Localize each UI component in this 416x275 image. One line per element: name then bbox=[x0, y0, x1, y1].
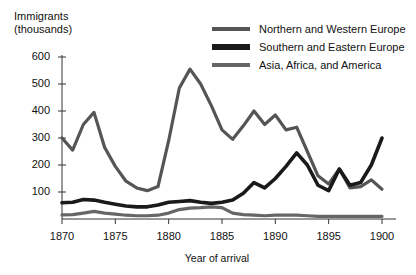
x-axis-label: Year of arrival bbox=[0, 252, 416, 264]
x-tick-label: 1890 bbox=[263, 230, 287, 242]
x-tick-label: 1900 bbox=[370, 230, 394, 242]
legend-item[interactable]: Northern and Western Europe bbox=[212, 20, 406, 38]
x-tick-label: 1880 bbox=[156, 230, 180, 242]
chart-legend: Northern and Western EuropeSouthern and … bbox=[212, 20, 406, 74]
legend-item[interactable]: Asia, Africa, and America bbox=[212, 56, 406, 74]
legend-swatch-icon bbox=[212, 44, 250, 49]
legend-label: Southern and Eastern Europe bbox=[259, 41, 405, 53]
series-line-1 bbox=[62, 138, 382, 207]
x-tick-label: 1875 bbox=[103, 230, 127, 242]
x-tick-label: 1895 bbox=[316, 230, 340, 242]
legend-label: Northern and Western Europe bbox=[259, 23, 406, 35]
x-tick-label: 1870 bbox=[50, 230, 74, 242]
immigration-line-chart: Immigrants (thousands) 10020030040050060… bbox=[0, 0, 416, 275]
legend-item[interactable]: Southern and Eastern Europe bbox=[212, 38, 406, 56]
legend-swatch-icon bbox=[212, 63, 250, 68]
series-line-0 bbox=[62, 69, 382, 190]
legend-swatch-icon bbox=[212, 27, 250, 32]
series-line-2 bbox=[62, 207, 382, 216]
legend-label: Asia, Africa, and America bbox=[259, 59, 381, 71]
x-tick-label: 1885 bbox=[210, 230, 234, 242]
